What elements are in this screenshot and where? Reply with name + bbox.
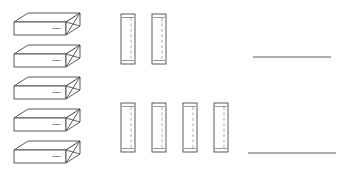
post-item (214, 103, 228, 152)
reference-rule-group (248, 57, 336, 153)
post-item (152, 14, 166, 64)
post-item (183, 103, 197, 152)
beam-group (14, 13, 80, 163)
beam-item (14, 45, 80, 67)
beam-item (14, 141, 80, 163)
drawing-canvas (0, 0, 338, 177)
beam-item (14, 77, 80, 99)
post-group-upper (121, 14, 166, 64)
post-body (152, 14, 166, 64)
post-body (214, 103, 228, 152)
post-body (121, 14, 135, 64)
post-body (121, 103, 135, 152)
post-group-lower (121, 103, 228, 152)
post-body (183, 103, 197, 152)
beam-item (14, 13, 80, 35)
beam-item (14, 109, 80, 131)
technical-drawing-svg (0, 0, 338, 177)
post-item (121, 14, 135, 64)
post-item (121, 103, 135, 152)
post-item (152, 103, 166, 152)
post-body (152, 103, 166, 152)
